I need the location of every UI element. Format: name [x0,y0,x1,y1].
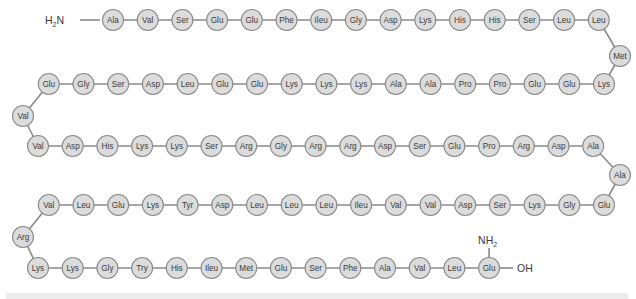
residue-label: Gly [275,142,288,151]
residue-label: Glu [483,264,496,273]
residue-lys: Lys [132,136,153,157]
residue-label: Val [17,112,28,121]
residue-label: His [101,142,113,151]
residue-label: Lys [285,80,297,89]
residue-glu: Glu [207,10,228,31]
residue-arg: Arg [340,136,361,157]
residue-glu: Glu [212,74,233,95]
residue-arg: Arg [305,136,326,157]
residue-label: Lys [136,142,148,151]
residue-label: Try [136,264,148,273]
residue-val: Val [28,136,49,157]
residue-glu: Glu [247,74,268,95]
residue-glu: Glu [524,74,545,95]
residue-ser: Ser [108,74,129,95]
residue-label: Asp [215,201,230,210]
residue-asp: Asp [455,195,476,216]
residue-val: Val [420,195,441,216]
residue-label: Val [32,142,43,151]
residue-label: Glu [275,264,288,273]
residue-asp: Asp [375,136,396,157]
residue-ileu: Ileu [201,258,222,279]
residue-val: Val [137,10,158,31]
residue-label: Ala [107,16,119,25]
residue-val: Val [13,106,34,127]
residue-lys: Lys [316,74,337,95]
residue-ala: Ala [420,74,441,95]
amide-group-label: NH2 [478,234,497,248]
residue-label: Val [142,16,153,25]
residue-asp: Asp [548,136,569,157]
residue-label: Asp [378,142,393,151]
residue-label: Glu [216,80,229,89]
residue-label: Arg [344,142,357,151]
residue-leu: Leu [73,195,94,216]
residue-label: Lys [66,264,78,273]
residue-asp: Asp [62,136,83,157]
residue-arg: Arg [236,136,257,157]
residue-pro: Pro [479,136,500,157]
residue-met: Met [610,46,631,67]
residue-leu: Leu [444,258,465,279]
residue-label: Ala [379,264,391,273]
residue-label: Leu [285,201,299,210]
residue-glu: Glu [108,195,129,216]
residue-label: Leu [250,201,264,210]
residue-his: His [166,258,187,279]
residue-label: Asp [551,142,566,151]
residue-glu: Glu [559,74,580,95]
residue-label: Arg [309,142,322,151]
residue-label: Phe [279,16,294,25]
residue-label: Leu [320,201,334,210]
residue-ala: Ala [375,258,396,279]
residue-label: Val [414,264,425,273]
residue-glu: Glu [594,195,615,216]
residue-label: Gly [563,201,576,210]
residue-ser: Ser [201,136,222,157]
residue-ileu: Ileu [351,195,372,216]
residue-met: Met [236,258,257,279]
residue-label: Lys [355,80,367,89]
residue-label: Leu [557,16,571,25]
residue-label: Lys [598,80,610,89]
residue-ala: Ala [385,74,406,95]
residue-label: Asp [384,16,399,25]
residue-label: Gly [77,80,90,89]
residue-val: Val [409,258,430,279]
residue-val: Val [38,195,59,216]
residue-his: His [484,10,505,31]
residue-ileu: Ileu [311,10,332,31]
residue-gly: Gly [270,136,291,157]
residue-label: Glu [251,80,264,89]
residue-label: Leu [77,201,91,210]
residue-label: Asp [146,80,161,89]
residue-leu: Leu [316,195,337,216]
residue-label: Ser [112,80,125,89]
residue-label: Glu [448,142,461,151]
residue-label: Asp [458,201,473,210]
residue-val: Val [385,195,406,216]
residue-pro: Pro [455,74,476,95]
residue-ala: Ala [610,165,631,186]
c-terminus-label: OH [517,262,533,274]
residue-label: Lys [147,201,159,210]
residue-label: Arg [240,142,253,151]
residue-label: Leu [448,264,462,273]
residue-asp: Asp [212,195,233,216]
residue-label: His [171,264,183,273]
residue-leu: Leu [554,10,575,31]
residue-lys: Lys [166,136,187,157]
residue-label: Glu [42,80,55,89]
residue-label: Pro [483,142,496,151]
residue-ser: Ser [172,10,193,31]
residue-label: Lys [528,201,540,210]
residue-ser: Ser [409,136,430,157]
residue-label: Glu [563,80,576,89]
residue-ala: Ala [103,10,124,31]
residue-glu: Glu [241,10,262,31]
residue-lys: Lys [28,258,49,279]
residue-label: Glu [245,16,258,25]
residue-arg: Arg [13,227,34,248]
residue-label: Ala [425,80,437,89]
residue-ser: Ser [489,195,510,216]
